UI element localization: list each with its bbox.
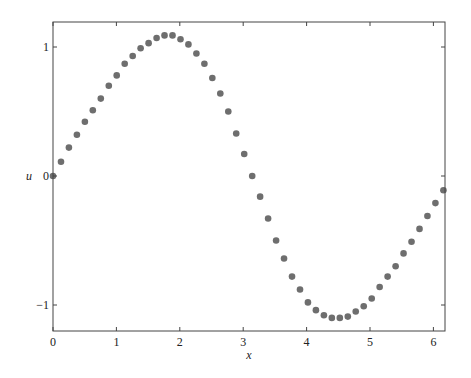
data-point — [408, 238, 415, 245]
data-point — [329, 315, 336, 322]
data-point — [297, 286, 304, 293]
x-tick-label: 6 — [430, 335, 436, 349]
x-tick-label: 2 — [177, 335, 183, 349]
data-point — [321, 312, 328, 319]
data-point — [82, 119, 89, 126]
data-point — [400, 250, 407, 257]
data-point — [233, 130, 240, 137]
y-axis-ticks: −101 — [36, 40, 445, 312]
x-axis-ticks: 0123456 — [50, 22, 436, 349]
data-point — [74, 131, 81, 138]
data-point — [384, 273, 391, 280]
data-point — [432, 200, 439, 207]
data-point — [66, 144, 73, 151]
data-point — [137, 45, 144, 52]
y-tick-label: 0 — [43, 169, 49, 183]
x-tick-label: 1 — [113, 335, 119, 349]
data-point — [161, 32, 168, 39]
data-point — [376, 284, 383, 291]
y-tick-label: −1 — [36, 298, 49, 312]
data-point — [352, 308, 359, 315]
data-point — [105, 82, 112, 89]
data-point — [169, 32, 176, 39]
data-point — [241, 151, 248, 158]
data-points — [50, 32, 447, 321]
data-point — [265, 215, 272, 222]
data-point — [225, 108, 232, 115]
data-point — [392, 263, 399, 270]
data-point — [201, 60, 208, 67]
data-point — [98, 95, 105, 102]
data-point — [337, 315, 344, 322]
data-point — [273, 237, 280, 244]
data-point — [257, 193, 264, 200]
x-tick-label: 3 — [240, 335, 246, 349]
data-point — [368, 295, 375, 302]
data-point — [217, 90, 224, 97]
x-tick-label: 0 — [50, 335, 56, 349]
data-point — [281, 255, 288, 262]
x-tick-label: 5 — [367, 335, 373, 349]
data-point — [129, 53, 136, 60]
data-point — [289, 273, 296, 280]
data-point — [360, 303, 367, 310]
data-point — [153, 35, 160, 42]
scatter-plot: 0123456 −101 x u — [0, 0, 471, 378]
data-point — [424, 213, 431, 220]
data-point — [416, 226, 423, 233]
data-point — [249, 173, 256, 180]
data-point — [90, 107, 97, 114]
data-point — [313, 307, 320, 314]
y-tick-label: 1 — [43, 40, 49, 54]
data-point — [177, 36, 184, 43]
data-point — [58, 159, 65, 166]
data-point — [305, 299, 312, 306]
data-point — [145, 40, 152, 47]
data-point — [113, 72, 120, 79]
data-point — [209, 75, 216, 82]
x-tick-label: 4 — [304, 335, 310, 349]
data-point — [193, 50, 200, 57]
y-axis-label: u — [26, 169, 32, 183]
data-point — [185, 41, 192, 48]
x-axis-label: x — [245, 348, 252, 362]
data-point — [121, 60, 128, 67]
data-point — [440, 187, 447, 194]
data-point — [345, 313, 352, 320]
